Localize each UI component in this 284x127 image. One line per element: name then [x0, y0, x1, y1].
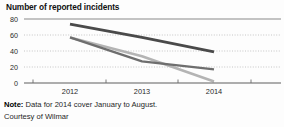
y-axis-tick-80: 80	[10, 15, 18, 24]
footnote-courtesy: Courtesy of Wilmar	[4, 111, 282, 123]
plot-svg: 80 60 40 20 0 2012	[0, 14, 284, 96]
chart-figure: Number of reported incidents 80 60 40 20…	[0, 0, 284, 127]
y-axis-tick-20: 20	[10, 63, 18, 72]
x-axis-tick-2014: 2014	[206, 87, 222, 96]
x-axis-tick-2013: 2013	[134, 87, 150, 96]
footnote-note-label: Note:	[4, 100, 23, 109]
chart-footer: Note: Data for 2014 cover January to Aug…	[4, 99, 282, 122]
x-axis-tick-2012: 2012	[62, 87, 78, 96]
plot-area: 80 60 40 20 0 2012	[0, 14, 284, 96]
footnote-note-text: Data for 2014 cover January to August.	[23, 100, 157, 109]
y-axis-tick-60: 60	[10, 31, 18, 40]
chart-title: Number of reported incidents	[6, 2, 119, 12]
footnote-note: Note: Data for 2014 cover January to Aug…	[4, 99, 282, 111]
y-axis-tick-40: 40	[10, 47, 18, 56]
series-line-dark	[70, 24, 214, 52]
y-axis-tick-0: 0	[14, 79, 18, 88]
